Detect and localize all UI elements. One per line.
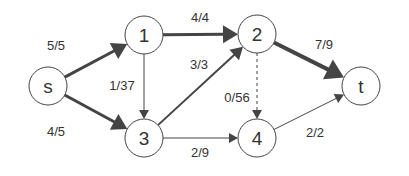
node-2: 2: [238, 15, 276, 53]
node-label: 3: [139, 128, 150, 149]
arrowhead-icon: [139, 110, 149, 119]
node-1: 1: [125, 16, 163, 54]
edge-label-1-2: 4/4: [191, 10, 209, 25]
node-4: 4: [238, 119, 276, 157]
edge-label-3-4: 2/9: [191, 145, 209, 160]
edge-2-4: [252, 53, 262, 119]
edge-1-2: [163, 25, 238, 43]
node-label: 4: [252, 128, 263, 149]
node-3: 3: [125, 119, 163, 157]
arrowhead-icon: [223, 25, 238, 43]
edge-label-3-2: 3/3: [190, 57, 208, 72]
edge-line: [65, 95, 115, 122]
node-s: s: [29, 67, 67, 105]
edge-label-4-t: 2/2: [306, 125, 324, 140]
flow-network-diagram: s1234t 5/54/54/41/373/30/567/92/92/2: [0, 0, 409, 176]
edge-label-2-4: 0/56: [224, 90, 249, 105]
edge-label-1-3: 1/37: [109, 78, 134, 93]
arrowhead-icon: [229, 133, 238, 143]
edges-layer: [65, 25, 344, 143]
edge-label-s-3: 4/5: [47, 124, 65, 139]
edge-s-1: [65, 43, 127, 77]
node-label: 1: [139, 25, 150, 46]
edge-s-3: [65, 95, 128, 130]
edge-line: [163, 34, 224, 35]
flow-network-canvas: s1234t 5/54/54/41/373/30/567/92/92/2: [0, 0, 409, 176]
edge-3-4: [163, 133, 238, 143]
node-t: t: [342, 67, 380, 105]
edge-label-s-1: 5/5: [47, 38, 65, 53]
node-label: 2: [252, 24, 263, 45]
edge-2-t: [274, 42, 344, 79]
arrowhead-icon: [252, 110, 262, 119]
edge-label-2-t: 7/9: [315, 37, 333, 52]
edge-line: [65, 50, 115, 77]
edge-1-3: [139, 54, 149, 119]
node-label: t: [358, 76, 364, 97]
node-label: s: [43, 76, 53, 97]
